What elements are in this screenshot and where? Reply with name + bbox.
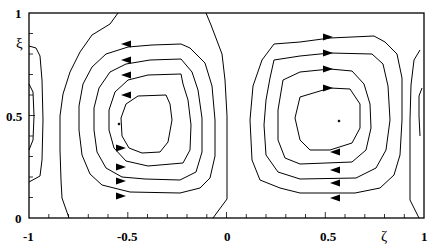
arrow-left-icon bbox=[121, 92, 131, 99]
flow-arrows bbox=[116, 34, 340, 202]
y-tick-1: 1 bbox=[15, 7, 22, 20]
arrow-right-icon bbox=[323, 50, 333, 57]
arrow-left-icon bbox=[330, 180, 340, 187]
streamlines bbox=[29, 13, 422, 218]
y-tick-0: 0 bbox=[15, 212, 22, 225]
arrow-right-icon bbox=[116, 164, 126, 171]
arrow-left-icon bbox=[121, 72, 131, 79]
arrow-right-icon bbox=[116, 178, 126, 185]
x-tick-0.5: 0.5 bbox=[320, 230, 336, 243]
x-ticks bbox=[49, 212, 405, 218]
x-tick-1: 1 bbox=[421, 230, 428, 243]
arrow-right-icon bbox=[116, 145, 126, 152]
arrow-right-icon bbox=[323, 85, 333, 92]
x-axis-label: ζ bbox=[381, 229, 387, 244]
arrow-right-icon bbox=[116, 193, 126, 200]
arrow-left-icon bbox=[121, 41, 131, 48]
y-tick-0.5: 0.5 bbox=[6, 110, 22, 123]
x-tick-neg0.5: -0.5 bbox=[117, 230, 138, 243]
arrow-left-icon bbox=[330, 167, 340, 174]
x-tick-0: 0 bbox=[224, 230, 231, 243]
arrow-right-icon bbox=[323, 66, 333, 73]
contour-plot bbox=[0, 0, 436, 247]
x-tick-neg1: -1 bbox=[23, 230, 34, 243]
arrow-right-icon bbox=[323, 34, 333, 41]
arrow-left-icon bbox=[330, 195, 340, 202]
y-axis-label: ξ bbox=[16, 36, 23, 51]
arrow-left-icon bbox=[121, 57, 131, 64]
